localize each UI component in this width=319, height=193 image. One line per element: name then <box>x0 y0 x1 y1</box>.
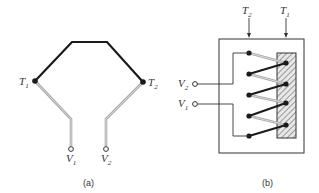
junction-t2-dot <box>140 79 146 85</box>
panel-b: T2 T1 V2 V1 (b) <box>178 4 304 188</box>
label-t1: T1 <box>19 75 29 90</box>
terminal-v1-b <box>193 102 198 107</box>
label-v2: V2 <box>101 152 112 167</box>
label-t1-b: T1 <box>280 4 290 19</box>
label-t2-b: T2 <box>242 4 252 19</box>
terminal-v2 <box>104 147 109 152</box>
terminal-v2-b <box>193 82 198 87</box>
light-wire-left-inner <box>35 81 71 146</box>
label-v1: V1 <box>66 152 76 167</box>
terminal-v1 <box>69 147 74 152</box>
thermocouple-figure: T1 T2 V1 V2 (a) <box>0 0 319 193</box>
arrow-t2-head <box>247 33 251 38</box>
light-wire-right-inner <box>106 82 143 146</box>
panel-a: T1 T2 V1 V2 (a) <box>19 42 158 188</box>
arrow-t1-head <box>284 33 288 38</box>
junction-t1-dot <box>32 78 38 84</box>
label-v2-b: V2 <box>178 77 189 92</box>
caption-b: (b) <box>262 178 273 188</box>
caption-a: (a) <box>83 178 94 188</box>
label-t2: T2 <box>148 76 158 91</box>
dark-wire <box>35 42 143 82</box>
label-v1-b: V1 <box>178 97 188 112</box>
